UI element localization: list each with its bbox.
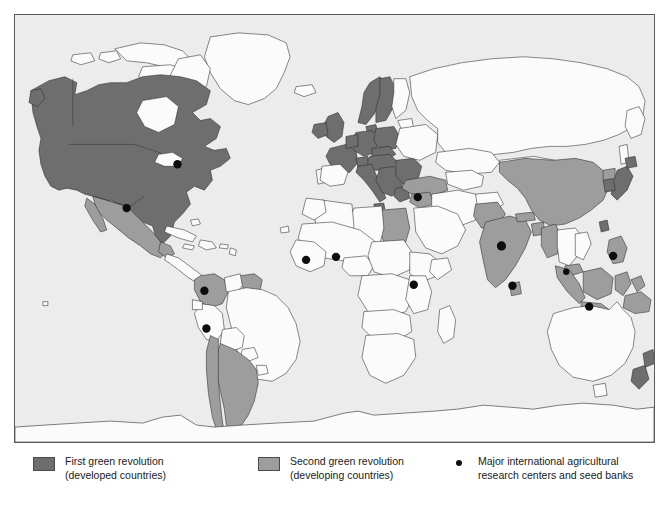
marker-research-center-indonesia <box>585 302 593 310</box>
marker-research-center-peru <box>202 324 210 332</box>
marker-research-center-syria <box>414 193 422 201</box>
research-center-dot-icon <box>456 460 462 466</box>
legend-label-line2: research centers and seed banks <box>478 469 633 483</box>
figure-page: First green revolution (developed countr… <box>0 0 670 505</box>
region-uruguay <box>256 365 268 375</box>
marker-research-center-colombia <box>200 287 208 295</box>
legend-label-line1: Major international agricultural <box>478 455 633 469</box>
legend-dot-wrapper <box>448 455 470 466</box>
legend-label-line2: (developing countries) <box>290 469 404 483</box>
region-galapagos <box>43 302 48 306</box>
marker-research-center-liberia <box>302 256 310 264</box>
legend-label-second-green-revolution: Second green revolution (developing coun… <box>290 455 404 482</box>
figure-caption <box>14 499 314 505</box>
legend-swatch-second-green-revolution <box>258 457 280 471</box>
world-map-svg <box>15 15 654 442</box>
marker-research-center-srilanka <box>508 282 516 290</box>
region-sudan-chad <box>368 240 412 278</box>
marker-research-center-malaysia <box>563 269 569 275</box>
region-tasmania <box>593 383 607 397</box>
region-netherlands-belgium <box>346 134 358 148</box>
marker-research-center-usa <box>173 160 181 168</box>
region-nepal-bhutan <box>515 212 535 222</box>
region-japan-north <box>625 156 637 168</box>
region-puerto-rico <box>219 244 228 249</box>
world-map-panel <box>14 14 655 443</box>
marker-research-center-philippines <box>609 252 617 260</box>
marker-research-center-india <box>497 241 506 250</box>
legend-item-second-green-revolution: Second green revolution (developing coun… <box>258 455 404 482</box>
marker-research-center-nigeria <box>332 253 340 261</box>
marker-research-center-kenya <box>410 281 418 289</box>
legend-label-first-green-revolution: First green revolution (developed countr… <box>65 455 166 482</box>
map-legend: First green revolution (developed countr… <box>0 455 670 497</box>
region-north-korea <box>603 168 615 180</box>
region-south-korea <box>603 178 615 192</box>
legend-label-research-centers: Major international agricultural researc… <box>478 455 633 482</box>
region-ecuador <box>192 300 202 310</box>
legend-label-line2: (developed countries) <box>65 469 166 483</box>
legend-label-line1: First green revolution <box>65 455 166 469</box>
legend-item-research-centers: Major international agricultural researc… <box>448 455 633 482</box>
region-taiwan <box>599 220 609 232</box>
marker-research-center-mexico <box>122 204 130 212</box>
legend-label-line1: Second green revolution <box>290 455 404 469</box>
legend-swatch-first-green-revolution <box>33 457 55 471</box>
legend-item-first-green-revolution: First green revolution (developed countr… <box>33 455 166 482</box>
